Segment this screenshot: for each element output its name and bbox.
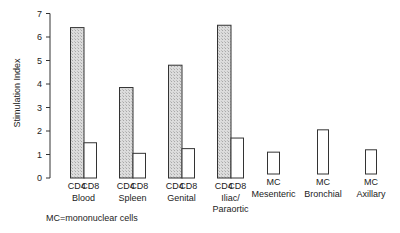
bar-label: CD8 [124, 181, 154, 192]
y-axis [46, 14, 50, 179]
group-label: Axillary [341, 189, 400, 200]
bar-spleen-cd4 [120, 88, 134, 178]
y-tick-label: 2 [32, 126, 42, 136]
bar-genital-cd4 [169, 65, 183, 178]
y-tick-label: 6 [32, 32, 42, 42]
y-tick-label: 3 [32, 103, 42, 113]
bar-chart: 01234567 CD4CD8BloodCD4CD8SpleenCD4CD8Ge… [0, 0, 400, 233]
group-label-line2: Paraortic [201, 204, 261, 215]
bar-label: CD8 [75, 181, 105, 192]
y-tick-label: 0 [32, 173, 42, 183]
bar-blood-cd4 [71, 28, 85, 178]
bar-iliac-paraortic-cd8 [231, 138, 244, 178]
bar-axillary-mc [366, 150, 377, 174]
bar-genital-cd8 [182, 149, 195, 178]
bar-spleen-cd8 [133, 153, 146, 178]
y-tick-label: 4 [32, 79, 42, 89]
bar-label: MC [308, 177, 338, 188]
y-tick-label: 7 [32, 9, 42, 19]
footnote: MC=mononuclear cells [46, 213, 138, 223]
bar-label: MC [356, 177, 386, 188]
bar-label: MC [259, 177, 289, 188]
bars [71, 25, 377, 178]
y-tick-label: 1 [32, 150, 42, 160]
bar-label: CD8 [173, 181, 203, 192]
bar-blood-cd8 [84, 143, 97, 178]
y-axis-label: Stimulation Index [12, 48, 22, 138]
y-tick-label: 5 [32, 56, 42, 66]
bar-iliac-paraortic-cd4 [218, 25, 232, 178]
bar-mesenteric-mc [268, 152, 280, 174]
bar-bronchial-mc [318, 130, 329, 174]
